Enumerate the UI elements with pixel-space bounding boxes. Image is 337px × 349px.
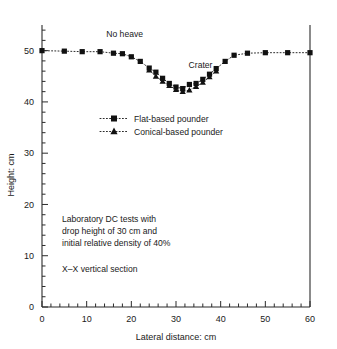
note-line-4: X–X vertical section	[62, 264, 138, 274]
x-tick-label: 40	[216, 314, 226, 324]
y-tick-label: 0	[29, 302, 34, 312]
data-point-square	[245, 51, 250, 56]
x-tick-label: 20	[126, 314, 136, 324]
legend-label-flat: Flat-based pounder	[134, 114, 209, 124]
chart-figure: 0102030405060 01020304050 Lateral distan…	[0, 0, 337, 349]
data-point-square	[129, 54, 134, 59]
note-line-1: Laboratory DC tests with	[62, 214, 156, 224]
data-point-square	[187, 82, 192, 87]
data-point-square	[97, 49, 102, 54]
data-point-square	[120, 51, 125, 56]
y-tick-label: 10	[24, 251, 34, 261]
y-tick-label: 50	[24, 46, 34, 56]
note-line-2: drop height of 30 cm and	[62, 226, 157, 236]
annotation-crater: Crater	[189, 60, 213, 70]
data-point-square	[307, 50, 312, 55]
x-tick-label: 60	[305, 314, 315, 324]
data-point-square	[62, 49, 67, 54]
data-point-square	[263, 50, 268, 55]
y-tick-label: 40	[24, 97, 34, 107]
data-point-square	[111, 51, 116, 56]
x-tick-label: 30	[171, 314, 181, 324]
data-point-square	[138, 59, 143, 64]
x-tick-label: 0	[39, 314, 44, 324]
legend-marker-square-icon	[111, 116, 117, 122]
data-point-square	[80, 49, 85, 54]
x-axis-title: Lateral distance: cm	[136, 332, 217, 342]
crater-profile-chart: 0102030405060 01020304050 Lateral distan…	[0, 0, 337, 349]
y-tick-label: 30	[24, 148, 34, 158]
x-tick-label: 10	[82, 314, 92, 324]
y-tick-label: 20	[24, 200, 34, 210]
data-point-square	[39, 48, 44, 53]
y-axis-title: Height: cm	[6, 153, 16, 196]
data-point-square	[285, 50, 290, 55]
note-line-3: initial relative density of 40%	[62, 238, 171, 248]
data-point-square	[223, 59, 228, 64]
legend-label-conical: Conical-based pounder	[134, 127, 223, 137]
x-tick-label: 50	[260, 314, 270, 324]
annotation-no-heave: No heave	[106, 29, 143, 39]
data-point-square	[231, 53, 236, 58]
